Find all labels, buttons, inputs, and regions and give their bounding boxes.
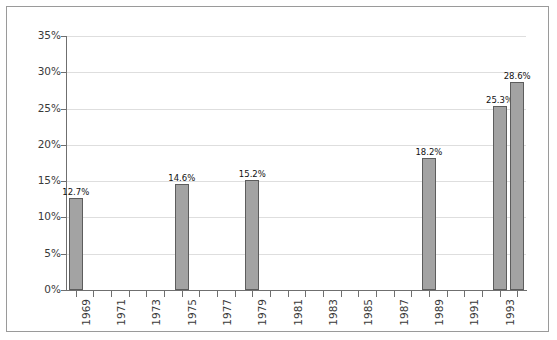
y-tick-mark [61, 72, 67, 73]
x-tick-mark [129, 291, 130, 297]
gridline [67, 217, 526, 218]
x-tick-mark [235, 291, 236, 297]
y-tick-mark [61, 109, 67, 110]
bar[interactable] [510, 82, 524, 290]
x-tick-mark [288, 291, 289, 297]
gridline [67, 145, 526, 146]
x-tick-mark [217, 291, 218, 297]
x-tick-mark [164, 291, 165, 297]
y-tick-mark [61, 36, 67, 37]
y-tick-label: 5% [15, 248, 61, 258]
x-tick-mark [376, 291, 377, 297]
x-tick-mark [305, 291, 306, 297]
y-tick-label: 0% [15, 284, 61, 294]
x-tick-label: 1973 [150, 299, 162, 326]
x-tick-mark [358, 291, 359, 297]
x-tick-mark [93, 291, 94, 297]
bar-value-label: 15.2% [234, 169, 270, 179]
y-tick-label: 15% [15, 175, 61, 185]
x-tick-label: 1985 [362, 299, 374, 326]
gridline [67, 181, 526, 182]
bar[interactable] [69, 198, 83, 290]
x-tick-label: 1971 [115, 299, 127, 326]
x-tick-label: 1987 [398, 299, 410, 326]
x-tick-mark [111, 291, 112, 297]
x-tick-mark [447, 291, 448, 297]
x-tick-label: 1979 [256, 299, 268, 326]
x-tick-mark [341, 291, 342, 297]
bar-value-label: 28.6% [499, 71, 535, 81]
x-tick-mark [429, 291, 430, 297]
x-axis-line [66, 290, 527, 291]
x-tick-mark [323, 291, 324, 297]
x-tick-mark [500, 291, 501, 297]
bar[interactable] [493, 106, 507, 290]
x-tick-label: 1991 [468, 299, 480, 326]
bar[interactable] [175, 184, 189, 290]
x-tick-mark [482, 291, 483, 297]
y-tick-mark [61, 217, 67, 218]
x-tick-label: 1983 [327, 299, 339, 326]
bar-value-label: 14.6% [164, 173, 200, 183]
x-tick-label: 1993 [504, 299, 516, 326]
y-tick-mark [61, 254, 67, 255]
x-tick-mark [517, 291, 518, 297]
chart-frame: 0%5%10%15%20%25%30%35% 19691971197319751… [6, 6, 549, 332]
y-tick-label: 35% [15, 30, 61, 40]
y-tick-mark [61, 290, 67, 291]
x-tick-mark [76, 291, 77, 297]
y-tick-label: 30% [15, 66, 61, 76]
gridline [67, 109, 526, 110]
x-tick-label: 1989 [433, 299, 445, 326]
bar[interactable] [245, 180, 259, 290]
x-tick-mark [394, 291, 395, 297]
x-tick-mark [464, 291, 465, 297]
x-tick-mark [270, 291, 271, 297]
x-tick-mark [252, 291, 253, 297]
y-tick-mark [61, 181, 67, 182]
x-tick-mark [411, 291, 412, 297]
gridline [67, 72, 526, 73]
x-tick-mark [182, 291, 183, 297]
y-tick-label: 10% [15, 211, 61, 221]
x-tick-label: 1969 [80, 299, 92, 326]
gridline [67, 36, 526, 37]
bar[interactable] [422, 158, 436, 290]
bar-value-label: 18.2% [411, 147, 447, 157]
bar-value-label: 12.7% [58, 187, 94, 197]
plot-area [67, 36, 526, 290]
y-tick-label: 20% [15, 139, 61, 149]
x-tick-mark [146, 291, 147, 297]
x-tick-label: 1975 [186, 299, 198, 326]
x-tick-mark [199, 291, 200, 297]
y-tick-label: 25% [15, 103, 61, 113]
y-axis-labels: 0%5%10%15%20%25%30%35% [7, 7, 61, 340]
x-tick-label: 1977 [221, 299, 233, 326]
y-tick-mark [61, 145, 67, 146]
x-tick-label: 1981 [292, 299, 304, 326]
gridline [67, 254, 526, 255]
